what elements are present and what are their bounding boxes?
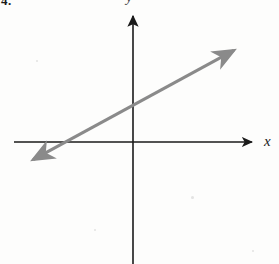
x-axis-label: x <box>264 134 271 149</box>
coordinate-plane-figure: 4. x y <box>0 0 279 264</box>
graph-canvas <box>0 0 279 264</box>
y-axis-label: y <box>126 0 132 5</box>
